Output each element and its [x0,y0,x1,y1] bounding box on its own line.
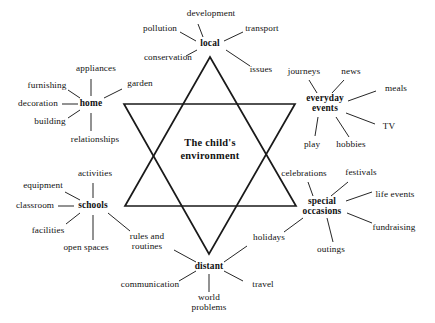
leaf-special-occasions-0: celebrations [281,169,327,179]
leaf-schools-1: equipment [23,181,63,191]
child-environment-diagram: The child's environment localdevelopment… [0,0,435,323]
leaf-local-3: conservation [144,53,192,63]
leaf-home-1: furnishing [28,81,67,91]
leaf-local-2: transport [245,24,279,34]
leaf-everyday-events-2: meals [385,84,407,94]
leaf-distant-0: communication [121,280,179,290]
leaf-distant-1: world problems [192,293,227,312]
leaf-home-0: appliances [76,64,116,74]
leaf-everyday-events-5: play [304,140,320,150]
leaf-special-occasions-4: outings [317,245,345,255]
leaf-everyday-events-1: news [341,67,360,77]
leaf-schools-5: rules and routines [130,232,164,251]
leaf-schools-2: classroom [16,201,54,211]
leaf-distant-2: travel [252,280,274,290]
node-local: local [200,39,220,49]
leaf-home-4: building [34,117,65,127]
leaf-everyday-events-3: TV [383,122,395,132]
leaf-everyday-events-0: journeys [288,67,320,77]
node-schools: schools [78,201,108,211]
leaf-home-5: relationships [71,135,119,145]
leaf-local-1: pollution [143,24,177,34]
leaf-home-2: garden [127,79,153,89]
leaf-schools-3: facilities [32,226,65,236]
leaf-special-occasions-5: holidays [253,233,285,243]
leaf-local-0: development [187,9,236,19]
node-everyday-events: everyday events [306,94,344,114]
leaf-special-occasions-1: festivals [345,168,377,178]
leaf-schools-4: open spaces [63,243,108,253]
node-special-occasions: special occasions [303,197,342,217]
leaf-local-4: issues [250,65,273,75]
leaf-home-3: decoration [18,99,58,109]
node-home: home [80,99,102,109]
leaf-everyday-events-4: hobbies [336,140,365,150]
leaf-special-occasions-2: life events [375,190,414,200]
center-label: The child's environment [180,137,239,162]
leaf-schools-0: activities [78,169,112,179]
leaf-special-occasions-3: fundraising [373,223,416,233]
node-distant: distant [195,262,224,272]
